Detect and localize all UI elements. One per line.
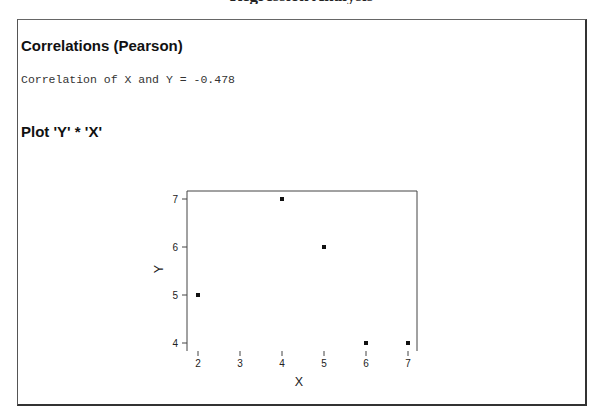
correlation-result: Correlation of X and Y = -0.478 [21,73,235,86]
correlations-heading: Correlations (Pearson) [21,37,183,54]
clipped-page-header: Regression Analysis [0,0,603,4]
output-frame: Correlations (Pearson) Correlation of X … [17,19,587,406]
plot-heading: Plot 'Y' * 'X' [21,123,102,140]
